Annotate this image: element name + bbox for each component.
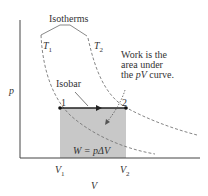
isotherms-bracket [41,25,87,36]
point-2-label: 2 [122,97,127,108]
v-axis-label: V [91,180,97,191]
work-note: Work is the area under the pV curve. [121,50,174,80]
work-formula: W = pΔV [73,145,110,156]
point-1-label: 1 [61,97,66,108]
p-axis-label: p [9,85,14,96]
isotherm-t1-label: T1 [43,40,52,56]
pv-diagram-graphics [0,0,208,196]
isotherms-label: Isotherms [49,13,88,24]
isotherm-t2-label: T2 [94,40,103,56]
v1-label: V1 [55,164,65,180]
isobar-label: Isobar [56,78,81,89]
v2-label: V2 [120,164,130,180]
isobar-pointer [75,92,88,106]
